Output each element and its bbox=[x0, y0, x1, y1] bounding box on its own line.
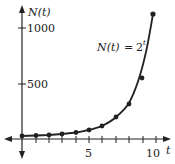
y-axis-up-arrow-icon bbox=[19, 5, 25, 13]
x-axis-label: t bbox=[166, 144, 171, 157]
data-point bbox=[74, 130, 79, 135]
exponential-chart: 5 10 t 1000 500 N(t) N(t) = 2 t bbox=[0, 0, 175, 164]
y-axis-label: N(t) bbox=[27, 6, 51, 19]
data-point bbox=[127, 102, 132, 107]
x-axis-left-arrow-icon bbox=[4, 136, 12, 142]
y-tick-label-1000: 1000 bbox=[27, 22, 55, 35]
x-axis-right-arrow-icon bbox=[163, 136, 171, 142]
data-point bbox=[100, 124, 105, 129]
data-point bbox=[60, 132, 65, 137]
y-tick-label-500: 500 bbox=[27, 78, 48, 91]
x-tick-label-10: 10 bbox=[146, 147, 160, 160]
formula-eq: = bbox=[124, 41, 133, 54]
x-axis: 5 10 t bbox=[4, 136, 171, 160]
data-point bbox=[20, 134, 25, 139]
formula-base: 2 bbox=[136, 41, 143, 54]
formula-annotation: N(t) = 2 t bbox=[96, 39, 146, 54]
data-point bbox=[150, 11, 155, 16]
data-point bbox=[47, 133, 52, 138]
data-point bbox=[34, 133, 39, 138]
x-tick-label-5: 5 bbox=[85, 147, 92, 160]
data-point bbox=[114, 115, 119, 120]
y-axis-down-arrow-icon bbox=[19, 151, 25, 159]
data-point bbox=[140, 76, 145, 81]
formula-lhs: N(t) bbox=[96, 41, 120, 54]
data-point bbox=[87, 128, 92, 133]
formula-exp: t bbox=[143, 39, 146, 47]
